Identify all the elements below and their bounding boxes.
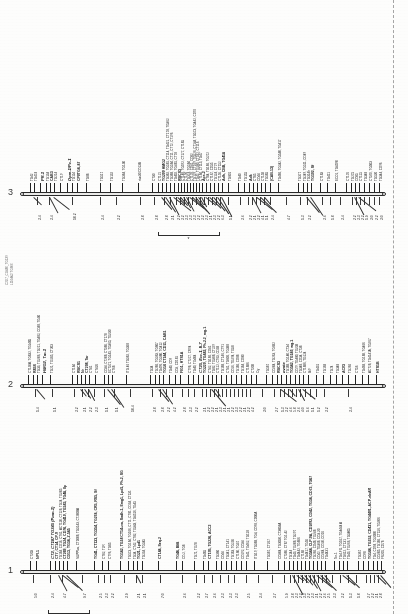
distance-label: 1.1 — [312, 407, 315, 412]
marker-label: ECO1, TG4590 — [336, 160, 339, 181]
marker-label: CPI/TG8, 87 — [78, 162, 82, 181]
marker-label: TG74 — [331, 365, 334, 373]
distance-tick — [296, 389, 297, 397]
chromosome-end-left — [20, 192, 24, 196]
distance-label: 2.3 — [106, 593, 109, 598]
marker-tick — [184, 183, 185, 192]
marker-tick — [379, 183, 380, 192]
distance-label: 4.7 — [64, 593, 67, 598]
linkage-group-label: 2 — [8, 379, 13, 389]
distance-tick — [234, 575, 235, 583]
region-bracket — [158, 232, 220, 236]
marker-label: rtuc30 CD13B — [139, 162, 142, 181]
distance-label: 3.1 — [84, 407, 87, 412]
marker-label: CT30 — [153, 174, 156, 181]
marker-tick — [343, 561, 344, 570]
distance-tick — [258, 575, 259, 583]
distance-tick — [348, 389, 349, 397]
marker-tick — [30, 561, 31, 570]
marker-tick — [46, 183, 47, 192]
marker-tick — [208, 561, 209, 570]
marker-tick — [36, 561, 37, 570]
distance-label: 3.1 — [144, 593, 147, 598]
marker-tick — [298, 183, 299, 192]
distance-label: 3.8 — [162, 407, 165, 412]
marker-tick — [72, 183, 73, 192]
marker-tick — [351, 183, 352, 192]
marker-tick — [50, 183, 51, 192]
distance-tick — [272, 575, 273, 583]
marker-tick — [323, 375, 324, 384]
marker-tick — [303, 183, 304, 192]
distance-tick — [238, 389, 239, 397]
marker-tick — [138, 183, 139, 192]
distance-tick — [379, 197, 380, 205]
marker-tick — [196, 183, 197, 192]
marker-label: TG168 — [324, 364, 327, 373]
distance-label: 1.1 — [266, 215, 269, 220]
marker-tick — [86, 183, 87, 192]
distance-tick — [374, 197, 375, 205]
marker-tick — [210, 183, 211, 192]
distance-tick — [340, 197, 341, 205]
marker-tick — [40, 183, 41, 192]
marker-tick — [221, 375, 222, 384]
marker-label: TG192, Sf — [312, 165, 316, 181]
marker-tick — [166, 183, 167, 192]
marker-tick — [277, 375, 278, 384]
marker-tick — [54, 183, 55, 192]
chromosome-bar — [22, 384, 384, 388]
marker-label: CT56 — [356, 366, 359, 373]
marker-leader-line — [111, 389, 124, 408]
marker-tick — [286, 375, 287, 384]
distance-label: 1.1 — [116, 407, 119, 412]
marker-tick — [208, 375, 209, 384]
distance-tick — [228, 197, 229, 205]
marker-tick — [335, 183, 336, 192]
marker-tick — [355, 375, 356, 384]
marker-tick — [373, 561, 374, 570]
marker-tick — [158, 183, 159, 192]
distance-tick — [228, 575, 229, 583]
distance-tick — [322, 197, 323, 205]
marker-tick — [169, 375, 170, 384]
marker-label: TG587 — [267, 364, 270, 373]
distance-label: 2.7 — [276, 407, 279, 412]
distance-tick — [340, 575, 341, 583]
distance-tick — [220, 575, 221, 583]
distance-tick — [356, 575, 357, 583]
marker-tick — [128, 561, 129, 570]
marker-tick — [339, 561, 340, 570]
marker-label: TG587, CT267 — [268, 539, 271, 559]
distance-tick — [248, 197, 249, 205]
distance-label: 2.3 — [96, 407, 99, 412]
distance-tick — [324, 389, 325, 397]
marker-tick — [244, 183, 245, 192]
marker-tick — [364, 183, 365, 192]
marker-tick — [231, 375, 232, 384]
distance-label: 2.8 — [166, 215, 169, 220]
marker-tick — [67, 561, 68, 570]
marker-label: TG468, TG188, TG466 — [363, 342, 366, 373]
marker-label: CD-2, TG8 — [183, 545, 186, 559]
marker-label: NPI-1 — [37, 550, 41, 559]
distance-tick — [234, 389, 235, 397]
marker-label: CD304, TG3050, CT3004A — [279, 523, 282, 559]
distance-tick — [374, 575, 375, 583]
marker-label: TG517 — [101, 172, 104, 181]
distance-tick — [250, 389, 251, 397]
marker-tick — [290, 375, 291, 384]
marker-tick — [175, 375, 176, 384]
marker-tick — [174, 183, 175, 192]
marker-label: TG348 — [337, 364, 340, 373]
marker-tick — [110, 183, 111, 192]
marker-label: TG88 — [87, 173, 90, 181]
distance-tick — [74, 389, 75, 397]
marker-label: Adh, CBB, TG418 — [223, 152, 227, 181]
distance-tick — [246, 389, 247, 397]
distance-tick — [194, 389, 195, 397]
marker-label: TG132 — [111, 172, 114, 181]
marker-label: TG40, CD9 — [170, 358, 173, 373]
marker-tick — [181, 183, 182, 192]
distance-tick — [332, 575, 333, 583]
